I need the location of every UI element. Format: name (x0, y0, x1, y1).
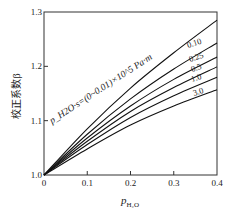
x-tick-label: 0.1 (82, 178, 93, 188)
y-tick-label: 1.3 (31, 7, 43, 17)
y-tick-label: 1.2 (31, 61, 42, 71)
curve-labels: 0.100.250.51.03.0 (186, 36, 205, 98)
x-tick-label: 0 (42, 178, 47, 188)
chart: 00.10.20.30.41.01.11.21.3 0.100.250.51.0… (0, 0, 235, 210)
x-tick-label: 0.2 (125, 178, 136, 188)
curve-label: 1.0 (190, 71, 203, 84)
curve-label: 3.0 (192, 85, 205, 98)
y-tick-label: 1.0 (31, 170, 43, 180)
x-axis-label: pH₂O (120, 194, 139, 209)
curve-label: 0.10 (186, 36, 203, 50)
x-tick-label: 0.4 (211, 178, 223, 188)
y-axis-label: 校正系数β (10, 73, 22, 118)
x-tick-label: 0.3 (168, 178, 180, 188)
curve-1.0 (44, 77, 217, 175)
y-tick-label: 1.1 (31, 116, 42, 126)
